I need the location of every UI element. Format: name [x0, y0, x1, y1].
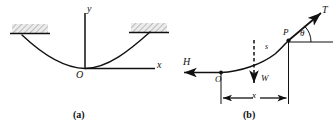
label-angle-theta: θ — [300, 29, 304, 38]
figure-root: y O x (a) H O s W P T θ x (b) — [0, 0, 336, 136]
label-weight-w: W — [261, 74, 269, 83]
figure-canvas — [0, 0, 336, 136]
label-force-h: H — [183, 57, 190, 67]
cable-curve-a — [22, 32, 150, 69]
label-arc-length-s: s — [265, 43, 268, 51]
support-right — [129, 23, 169, 33]
label-origin-a: O — [76, 70, 83, 80]
angle-arc-theta — [305, 27, 311, 42]
caption-panel-b: (b) — [243, 110, 255, 120]
label-point-p: P — [283, 28, 289, 37]
panel-b-drawing — [184, 13, 333, 104]
force-arrow-t — [289, 13, 322, 41]
label-distance-x: x — [252, 91, 256, 100]
label-x-axis-a: x — [157, 60, 161, 70]
cable-curve-b — [221, 41, 289, 73]
panel-a-drawing — [10, 13, 169, 69]
label-y-axis-a: y — [87, 4, 91, 14]
caption-panel-a: (a) — [73, 110, 85, 120]
label-origin-b: O — [215, 75, 222, 84]
support-left — [10, 24, 50, 34]
label-tension-t: T — [322, 5, 328, 15]
